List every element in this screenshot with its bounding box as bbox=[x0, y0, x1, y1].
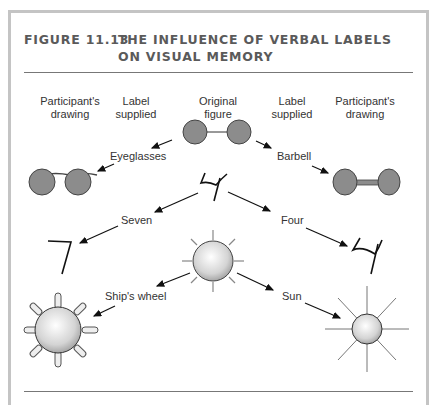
original-two-circles-icon bbox=[183, 120, 251, 144]
arrow-icon bbox=[94, 306, 115, 316]
diagram-graphics bbox=[0, 0, 437, 405]
four-drawing-icon bbox=[353, 238, 382, 274]
arrow-icon bbox=[312, 166, 328, 173]
arrow-icon bbox=[152, 140, 172, 148]
arrow-icon bbox=[155, 193, 198, 212]
barbell-drawing-icon bbox=[333, 169, 400, 195]
original-sun-circle-icon bbox=[182, 230, 244, 292]
sun-drawing-icon bbox=[325, 286, 409, 372]
arrow-icon bbox=[306, 228, 347, 246]
arrow-icon bbox=[98, 164, 114, 171]
arrow-icon bbox=[80, 226, 118, 243]
seven-drawing-icon bbox=[48, 241, 71, 274]
arrow-icon bbox=[237, 273, 273, 290]
ships-wheel-drawing-icon bbox=[24, 293, 98, 367]
arrow-icon bbox=[256, 141, 271, 148]
eyeglasses-drawing-icon bbox=[29, 169, 97, 195]
arrow-icon bbox=[305, 303, 340, 318]
bottom-divider bbox=[24, 391, 413, 392]
arrow-icon bbox=[157, 273, 190, 286]
arrow-icon bbox=[228, 192, 270, 211]
original-ambiguous-four-icon bbox=[201, 173, 227, 201]
